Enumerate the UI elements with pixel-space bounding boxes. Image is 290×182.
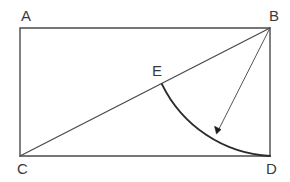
vertex-label-b: B	[269, 7, 279, 24]
vertex-label-d: D	[266, 160, 277, 177]
geometry-diagram: A B C D E	[0, 0, 290, 182]
geometry-figure-canvas: A B C D E	[0, 0, 290, 182]
vertex-label-e: E	[152, 62, 162, 79]
vertex-label-c: C	[17, 160, 28, 177]
vertex-label-a: A	[21, 7, 31, 24]
